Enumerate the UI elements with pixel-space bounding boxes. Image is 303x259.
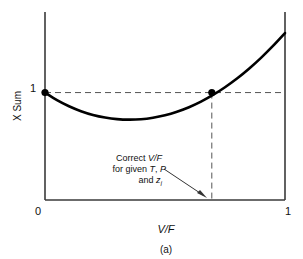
annotation-line-2: for given T, P: [112, 164, 166, 174]
y-tick-label-1: 1: [30, 82, 36, 94]
annotation-line-1-italic: V/F: [148, 153, 163, 163]
figure-caption: (a): [160, 244, 172, 255]
x-tick-label-1: 1: [285, 205, 291, 217]
x-sum-curve: [45, 33, 285, 120]
x-tick-label-0: 0: [35, 205, 41, 217]
annotation-arrow: [164, 169, 207, 198]
x-axis-title: V/F: [157, 223, 175, 235]
figure-panel: 0 1 1 V/F X Sum Correct V/F for given T,…: [0, 0, 303, 259]
annotation-line-3-subscript-i: i: [161, 180, 163, 187]
y-axis-title: X Sum: [12, 91, 23, 121]
solution-point-marker: [208, 89, 215, 96]
correct-vf-annotation: Correct V/F for given T, P and zi: [112, 153, 166, 187]
annotation-line-2-italic-p: P: [160, 164, 166, 174]
left-endpoint-marker: [41, 89, 48, 96]
annotation-line-1-plain: Correct: [116, 153, 148, 163]
chart-svg: 0 1 1 V/F X Sum Correct V/F for given T,…: [0, 0, 303, 259]
annotation-line-3-plain: and: [139, 175, 157, 185]
annotation-line-3: and zi: [139, 175, 163, 187]
arrow-head: [197, 190, 207, 198]
arrow-shaft: [164, 169, 203, 195]
annotation-line-1: Correct V/F: [116, 153, 163, 163]
reference-lines: [45, 93, 285, 200]
annotation-line-2-plain: for given: [112, 164, 149, 174]
